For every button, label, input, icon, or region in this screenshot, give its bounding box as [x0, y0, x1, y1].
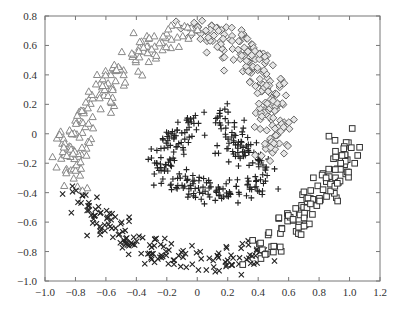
cross-marker [131, 235, 136, 240]
plus-marker [167, 156, 173, 162]
triangle-marker [85, 88, 92, 94]
scatter-chart: −1.0−0.8−0.6−0.4−0.200.20.40.60.81.01.2 … [0, 0, 404, 313]
square-marker [333, 167, 339, 173]
diamond-marker [220, 67, 227, 74]
plus-marker [202, 132, 208, 138]
plus-marker [246, 178, 252, 184]
cross-marker [60, 191, 65, 196]
square-marker [311, 175, 317, 181]
diamond-marker [230, 56, 237, 63]
plus-marker [231, 124, 237, 130]
plot-border [45, 16, 380, 281]
cross-marker [142, 261, 147, 266]
x-tick-label: −0.8 [65, 286, 85, 298]
plus-marker [195, 120, 201, 126]
square-marker [279, 226, 285, 232]
triangle-marker [112, 77, 119, 83]
square-marker [301, 215, 307, 221]
plus-marker [170, 176, 176, 182]
x-tick-label: 0.2 [221, 286, 235, 298]
triangle-marker [85, 120, 92, 126]
cross-marker [194, 250, 199, 255]
triangle-marker [97, 105, 104, 111]
plus-marker [223, 125, 229, 131]
plus-marker [212, 197, 218, 203]
plus-marker [253, 140, 259, 146]
cross-marker [94, 195, 99, 200]
x-tick-label: −0.2 [157, 286, 177, 298]
square-marker [296, 224, 302, 230]
plus-marker [222, 116, 228, 122]
cross-marker [166, 261, 171, 266]
plus-marker [234, 177, 240, 183]
square-marker [335, 198, 341, 204]
triangle-marker [122, 79, 129, 85]
y-tick-label: −1.0 [17, 275, 37, 287]
cross-marker [96, 204, 101, 209]
triangle-marker [84, 184, 91, 190]
cross-marker [139, 251, 144, 256]
plus-marker [233, 133, 239, 139]
plus-marker [181, 151, 187, 157]
square-marker [262, 252, 268, 258]
y-tick-label: −0.2 [17, 157, 37, 169]
plus-marker [245, 175, 251, 181]
cross-marker [217, 268, 222, 273]
diamond-marker [197, 35, 204, 42]
cross-marker [147, 242, 152, 247]
plus-marker [198, 196, 204, 202]
square-marker [324, 194, 330, 200]
plus-marker [235, 200, 241, 206]
plus-marker [196, 174, 202, 180]
plus-marker [252, 174, 258, 180]
series-square [240, 126, 362, 268]
plus-marker [225, 120, 231, 126]
cross-marker [198, 249, 203, 254]
square-marker [240, 262, 246, 268]
square-marker [326, 133, 332, 139]
y-tick-label: 0.4 [23, 69, 37, 81]
triangle-marker [89, 113, 96, 119]
cross-marker [239, 246, 244, 251]
plus-marker [207, 194, 213, 200]
y-tick-label: −0.8 [17, 246, 37, 258]
square-marker [308, 201, 314, 207]
cross-marker [176, 253, 181, 258]
cross-marker [169, 241, 174, 246]
plus-marker [216, 150, 222, 156]
square-marker [349, 126, 355, 132]
square-marker [266, 230, 272, 236]
square-marker [250, 238, 256, 244]
plus-marker [225, 146, 231, 152]
cross-marker [120, 245, 125, 250]
cross-marker [190, 262, 195, 267]
y-tick-label: 0.6 [23, 39, 37, 51]
plus-marker [151, 171, 157, 177]
plus-marker [233, 183, 239, 189]
square-marker [317, 198, 323, 204]
cross-marker [171, 262, 176, 267]
square-marker [293, 206, 299, 212]
square-marker [352, 160, 358, 166]
y-tick-label: 0.2 [23, 98, 37, 110]
plus-marker [225, 109, 231, 115]
square-marker [301, 189, 307, 195]
square-marker [332, 138, 338, 144]
square-marker [301, 223, 307, 229]
plus-marker [201, 201, 207, 207]
square-marker [338, 160, 344, 166]
cross-marker [90, 220, 95, 225]
square-marker [290, 217, 296, 223]
square-marker [276, 215, 282, 221]
plus-marker [190, 173, 196, 179]
cross-marker [178, 264, 183, 269]
diamond-marker [228, 24, 235, 31]
square-marker [335, 181, 341, 187]
plus-marker [256, 189, 262, 195]
plus-marker [245, 135, 251, 141]
cross-marker [84, 233, 89, 238]
cross-marker [126, 252, 131, 257]
cross-marker [69, 210, 74, 215]
square-marker [323, 175, 329, 181]
plus-marker [263, 167, 269, 173]
